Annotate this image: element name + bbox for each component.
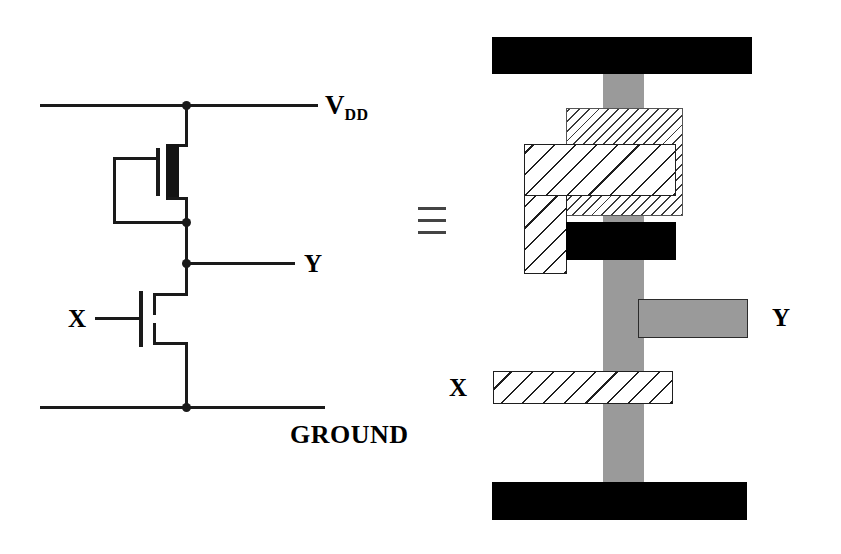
- ground-metal-rail: [492, 482, 747, 520]
- gate-source-contact-bar: [566, 222, 676, 260]
- layout-diagram: X Y: [0, 0, 841, 554]
- driver-gate-poly-x: [493, 371, 673, 404]
- layout-x-label: X: [449, 375, 467, 400]
- load-gate-poly-horizontal-arm: [524, 144, 676, 196]
- figure-canvas: VDD Y: [0, 0, 841, 554]
- y-output-tab: [638, 299, 748, 338]
- vdd-metal-rail: [492, 37, 752, 74]
- layout-y-label: Y: [772, 305, 790, 330]
